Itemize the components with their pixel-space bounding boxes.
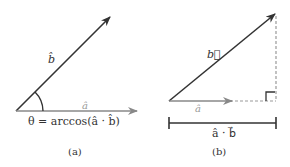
projection-label: â · b⃗: [212, 128, 236, 139]
caption-a: (a): [68, 147, 82, 157]
angle-arc: [35, 92, 43, 111]
label-b-vec: b⃗: [207, 49, 221, 60]
label-b-hat: b̂: [48, 54, 55, 65]
label-a-hat: â: [195, 104, 201, 114]
panel-b: [169, 14, 276, 129]
angle-formula: θ = arccos(â · b̂): [28, 116, 120, 127]
diagram-canvas: [0, 0, 290, 167]
caption-b: (b): [212, 147, 226, 157]
vector-b-arrow: [169, 14, 275, 101]
panel-a: [16, 17, 137, 111]
label-a-hat: â: [82, 101, 88, 111]
right-angle-marker: [266, 92, 275, 101]
vector-b-hat-arrow: [16, 17, 110, 111]
